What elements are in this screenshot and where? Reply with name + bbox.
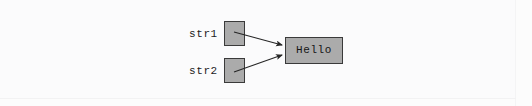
variable-label-str1: str1 — [189, 29, 218, 40]
figure-right-edge — [515, 0, 516, 106]
reference-diagram-figure: str1 str2 Hello — [0, 0, 532, 106]
figure-bottom-edge — [0, 98, 516, 99]
hello-object-value: Hello — [296, 45, 332, 56]
str1-reference-box — [224, 21, 245, 46]
hello-object-box: Hello — [285, 37, 343, 64]
figure-plate-background — [0, 0, 516, 99]
str2-reference-box — [224, 58, 245, 83]
variable-label-str2: str2 — [189, 66, 218, 77]
